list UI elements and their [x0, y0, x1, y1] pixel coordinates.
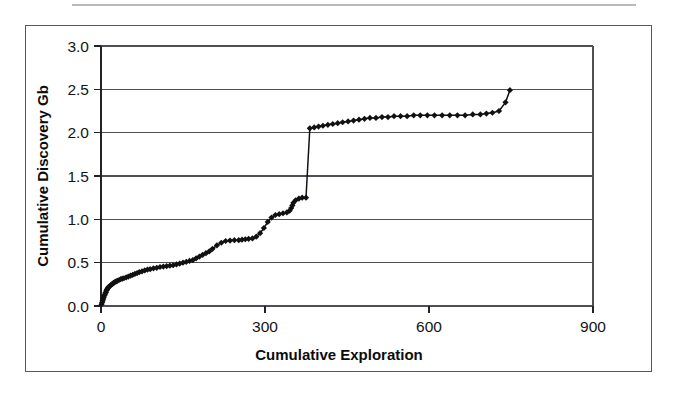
- y-tick-label: 0.0: [67, 298, 89, 315]
- series-marker-diamond: [431, 112, 437, 118]
- x-tick-marks-group: [101, 306, 593, 313]
- series-marker-diamond: [361, 116, 367, 122]
- series-marker-diamond: [350, 117, 356, 123]
- series-marker-diamond: [477, 111, 483, 117]
- series-marker-diamond: [340, 119, 346, 125]
- series-marker-diamond: [462, 112, 468, 118]
- series-marker-diamond: [397, 113, 403, 119]
- series-marker-diamond: [373, 115, 379, 121]
- series-marker-diamond: [454, 112, 460, 118]
- y-tick-label: 2.5: [67, 81, 89, 98]
- series-marker-diamond: [320, 123, 326, 129]
- series-marker-diamond: [489, 110, 495, 116]
- x-tick-label: 900: [580, 318, 606, 335]
- series-marker-diamond: [439, 112, 445, 118]
- y-tick-labels-group: 0.00.51.01.52.02.53.0: [67, 38, 89, 315]
- scan-artifact-rule: [72, 4, 636, 6]
- series-marker-diamond: [325, 122, 331, 128]
- series-marker-diamond: [335, 120, 341, 126]
- x-tick-label: 0: [97, 318, 106, 335]
- y-tick-label: 1.0: [67, 211, 89, 228]
- y-axis-title: Cumulative Discovery Gb: [34, 85, 51, 267]
- series-marker-diamond: [470, 111, 476, 117]
- series-marker-diamond: [367, 115, 373, 121]
- x-tick-label: 600: [416, 318, 442, 335]
- y-tick-label: 2.0: [67, 124, 89, 141]
- series-marker-diamond: [345, 118, 351, 124]
- y-tick-label: 3.0: [67, 38, 89, 55]
- figure-frame: 0300600900 0.00.51.01.52.02.53.0 Cumulat…: [25, 25, 652, 372]
- series-marker-diamond: [379, 114, 385, 120]
- x-axis-title: Cumulative Exploration: [255, 346, 423, 363]
- series-marker-diamond: [385, 114, 391, 120]
- y-tick-marks-group: [94, 46, 101, 306]
- y-tick-label: 1.5: [67, 168, 89, 185]
- x-tick-label: 300: [252, 318, 278, 335]
- y-tick-label: 0.5: [67, 254, 89, 271]
- x-tick-labels-group: 0300600900: [97, 318, 607, 335]
- series-marker-diamond: [303, 195, 309, 201]
- series-marker-diamond: [391, 113, 397, 119]
- chart-plot-area: 0300600900 0.00.51.01.52.02.53.0 Cumulat…: [26, 26, 653, 373]
- series-marker-diamond: [483, 111, 489, 117]
- series-marker-diamond: [507, 87, 513, 93]
- data-series-group: [98, 87, 513, 307]
- series-marker-diamond: [330, 121, 336, 127]
- creaming-curve-chart: 0300600900 0.00.51.01.52.02.53.0 Cumulat…: [26, 26, 653, 373]
- series-marker-diamond: [417, 112, 423, 118]
- series-marker-diamond: [356, 117, 362, 123]
- series-marker-diamond: [411, 112, 417, 118]
- series-marker-diamond: [424, 112, 430, 118]
- series-marker-diamond: [404, 113, 410, 119]
- series-marker-diamond: [447, 112, 453, 118]
- gridlines-group: [101, 46, 593, 306]
